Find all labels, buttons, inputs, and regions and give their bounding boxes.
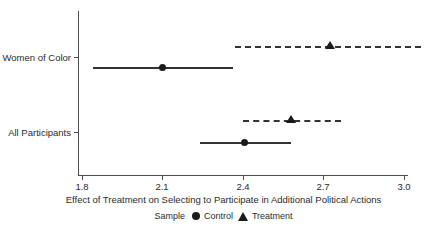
y-axis-label-all-participants: All Participants <box>0 127 71 138</box>
x-axis-tick-label-4: 3.0 <box>384 181 424 192</box>
y-axis-line <box>78 11 79 175</box>
x-axis-tick-2 <box>243 176 244 180</box>
circle-marker-icon <box>192 212 200 220</box>
y-axis-label-women-of-color: Women of Color <box>0 52 71 63</box>
x-axis-tick-3 <box>323 176 324 180</box>
legend: Sample Control Treatment <box>0 211 447 221</box>
point-marker-all-participants-control <box>241 139 248 146</box>
legend-label-control: Control <box>204 211 233 221</box>
coefficient-plot: Women of Color All Participants 1.8 2.1 … <box>0 0 447 230</box>
y-axis-tick-women-of-color <box>74 57 78 58</box>
x-axis-tick-1 <box>162 176 163 180</box>
x-axis-tick-label-3: 2.7 <box>303 181 343 192</box>
legend-item-treatment[interactable]: Treatment <box>238 211 293 221</box>
x-axis-tick-label-2: 2.4 <box>223 181 263 192</box>
triangle-marker-icon <box>238 212 248 221</box>
x-axis-tick-4 <box>404 176 405 180</box>
legend-label-treatment: Treatment <box>252 211 293 221</box>
x-axis-tick-0 <box>82 176 83 180</box>
point-marker-women-of-color-control <box>159 64 166 71</box>
x-axis-tick-label-1: 2.1 <box>142 181 182 192</box>
legend-title: Sample <box>154 211 185 221</box>
legend-item-control[interactable]: Control <box>192 211 233 221</box>
y-axis-tick-all-participants <box>74 132 78 133</box>
x-axis-tick-label-0: 1.8 <box>62 181 102 192</box>
x-axis-title: Effect of Treatment on Selecting to Part… <box>0 194 447 205</box>
point-marker-women-of-color-treatment <box>325 41 335 49</box>
point-marker-all-participants-treatment <box>286 115 296 123</box>
